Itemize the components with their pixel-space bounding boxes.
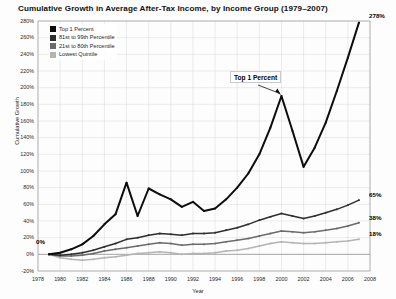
x-tick-label: 1996	[227, 276, 247, 282]
x-tick-label: 2002	[294, 276, 314, 282]
y-tick-label: 140%	[4, 134, 34, 140]
legend-item[interactable]: Top 1 Percent	[50, 25, 115, 33]
x-tick-label: 2004	[316, 276, 336, 282]
y-tick-label: 280%	[4, 18, 34, 24]
x-tick-label: 1980	[50, 276, 70, 282]
x-tick-label: 1990	[161, 276, 181, 282]
y-tick-label: 20%	[4, 234, 34, 240]
legend-item-label: 81st to 99th Percentile	[59, 34, 115, 41]
legend-item-label: Top 1 Percent	[59, 26, 94, 33]
y-tick-label: 240%	[4, 51, 34, 57]
top-1-percent-callout: Top 1 Percent	[230, 71, 281, 83]
legend-item-label: 21st to 80th Percentile	[59, 43, 115, 50]
x-tick-label: 1982	[72, 276, 92, 282]
legend-swatch-icon	[50, 26, 56, 32]
x-axis-title: Year	[0, 288, 396, 294]
legend-swatch-icon	[50, 52, 56, 58]
y-tick-label: 0%	[4, 251, 34, 257]
x-tick-label: 1978	[28, 276, 48, 282]
x-tick-label: 1992	[183, 276, 203, 282]
legend-item[interactable]: Lowest Quintile	[50, 51, 115, 59]
chart-page: Cumulative Growth in Average After-Tax I…	[0, 0, 396, 299]
y-tick-label: 180%	[4, 101, 34, 107]
plot-area: Cumulative Growth Year 280%260%240%220%2…	[0, 0, 396, 299]
x-tick-label: 1988	[139, 276, 159, 282]
x-tick-label: 1986	[117, 276, 137, 282]
y-tick-label: 260%	[4, 34, 34, 40]
x-tick-label: 1998	[249, 276, 269, 282]
legend: Top 1 Percent81st to 99th Percentile21st…	[49, 24, 117, 60]
origin-value-label: 0%	[36, 238, 45, 245]
y-tick-label: 120%	[4, 151, 34, 157]
annotation-arrow	[258, 85, 281, 95]
series-end-label: 38%	[369, 214, 381, 221]
legend-swatch-icon	[50, 35, 56, 41]
y-tick-label: 220%	[4, 68, 34, 74]
y-tick-label: 80%	[4, 184, 34, 190]
series-end-label: 278%	[369, 12, 385, 19]
x-tick-label: 1984	[94, 276, 114, 282]
legend-swatch-icon	[50, 43, 56, 49]
legend-item[interactable]: 21st to 80th Percentile	[50, 42, 115, 50]
series-end-label: 65%	[369, 191, 381, 198]
y-tick-label: 40%	[4, 218, 34, 224]
y-tick-label: -20%	[4, 268, 34, 274]
y-tick-label: 100%	[4, 168, 34, 174]
y-tick-label: 60%	[4, 201, 34, 207]
y-tick-label: 200%	[4, 84, 34, 90]
series-end-label: 18%	[369, 230, 381, 237]
x-tick-label: 2008	[360, 276, 380, 282]
legend-item[interactable]: 81st to 99th Percentile	[50, 34, 115, 42]
y-tick-label: 160%	[4, 118, 34, 124]
x-tick-label: 1994	[205, 276, 225, 282]
legend-item-label: Lowest Quintile	[59, 51, 97, 58]
x-tick-label: 2006	[338, 276, 358, 282]
x-tick-label: 2000	[271, 276, 291, 282]
